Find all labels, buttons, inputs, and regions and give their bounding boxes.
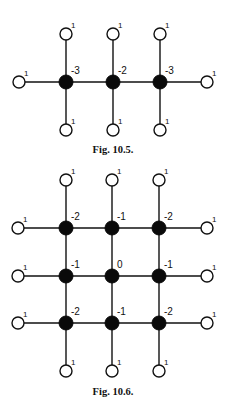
open-vertex-label: 1 bbox=[23, 263, 28, 272]
open-vertex-label: 1 bbox=[23, 215, 28, 224]
filled-vertex-label: -1 bbox=[164, 259, 173, 270]
filled-vertex bbox=[105, 316, 119, 330]
filled-vertex bbox=[106, 75, 120, 89]
open-vertex-label: 1 bbox=[71, 117, 76, 126]
filled-vertex-label: -3 bbox=[165, 65, 174, 76]
open-vertex-label: 1 bbox=[23, 310, 28, 319]
open-vertex-label: 1 bbox=[165, 21, 170, 30]
diagram-canvas: 11111111-3-2-3 Fig. 10.5. 111111111111-2… bbox=[0, 0, 227, 404]
filled-vertex bbox=[105, 269, 119, 283]
filled-vertex-label: -2 bbox=[118, 65, 127, 76]
figure-10-6: 111111111111-2-1-2-10-1-2-1-2 bbox=[12, 167, 217, 377]
filled-vertex bbox=[59, 269, 73, 283]
open-vertex-label: 1 bbox=[212, 310, 217, 319]
filled-vertex-label: -1 bbox=[71, 259, 80, 270]
open-vertex-label: 1 bbox=[212, 215, 217, 224]
open-vertex-label: 1 bbox=[118, 21, 123, 30]
open-vertex-label: 1 bbox=[117, 358, 122, 367]
open-vertex-label: 1 bbox=[164, 358, 169, 367]
filled-vertex-label: 0 bbox=[117, 259, 123, 270]
figure-caption-10-6: Fig. 10.6. bbox=[93, 386, 134, 397]
filled-vertex-label: -1 bbox=[117, 306, 126, 317]
open-vertex-label: 1 bbox=[71, 167, 76, 176]
filled-vertex bbox=[59, 75, 73, 89]
open-vertex-label: 1 bbox=[24, 69, 29, 78]
filled-vertex-label: -2 bbox=[164, 211, 173, 222]
filled-vertex bbox=[105, 221, 119, 235]
filled-vertex bbox=[59, 221, 73, 235]
figure-10-5: 11111111-3-2-3 bbox=[13, 21, 217, 136]
filled-vertex bbox=[152, 221, 166, 235]
open-vertex-label: 1 bbox=[117, 167, 122, 176]
filled-vertex bbox=[152, 316, 166, 330]
filled-vertex bbox=[153, 75, 167, 89]
filled-vertex bbox=[59, 316, 73, 330]
open-vertex-label: 1 bbox=[71, 21, 76, 30]
filled-vertex-label: -2 bbox=[71, 306, 80, 317]
open-vertex-label: 1 bbox=[71, 358, 76, 367]
open-vertex-label: 1 bbox=[165, 117, 170, 126]
filled-vertex bbox=[152, 269, 166, 283]
open-vertex-label: 1 bbox=[212, 263, 217, 272]
filled-vertex-label: -1 bbox=[117, 211, 126, 222]
open-vertex-label: 1 bbox=[164, 167, 169, 176]
open-vertex-label: 1 bbox=[118, 117, 123, 126]
open-vertex-label: 1 bbox=[212, 69, 217, 78]
figure-caption-10-5: Fig. 10.5. bbox=[93, 144, 134, 155]
filled-vertex-label: -2 bbox=[71, 211, 80, 222]
filled-vertex-label: -2 bbox=[164, 306, 173, 317]
filled-vertex-label: -3 bbox=[71, 65, 80, 76]
